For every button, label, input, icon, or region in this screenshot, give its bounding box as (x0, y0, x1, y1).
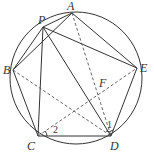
label-A: A (66, 0, 75, 13)
label-D: D (109, 139, 119, 153)
segment-BC (13, 70, 38, 136)
segment-BD (13, 70, 111, 136)
angle-1-label: 1 (107, 119, 112, 130)
label-E: E (139, 61, 148, 75)
circumcircle (10, 12, 142, 144)
label-P: P (37, 13, 46, 27)
label-C: C (27, 139, 36, 153)
segment-DE (111, 68, 137, 136)
angle-2-label: 2 (53, 124, 58, 135)
segment-EA (72, 13, 137, 68)
angle-2-arc (45, 131, 47, 136)
label-B: B (3, 63, 11, 77)
segment-AD (72, 13, 111, 136)
label-F: F (98, 76, 107, 90)
segment-PE (43, 27, 137, 68)
geometry-figure: A P B C D E F 1 2 (0, 0, 154, 156)
